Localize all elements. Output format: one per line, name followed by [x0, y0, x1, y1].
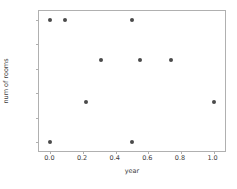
data-point	[138, 58, 142, 62]
x-tick-label: 0.0	[44, 155, 54, 162]
y-tick-mark	[36, 44, 39, 45]
x-tick-label: 0.8	[175, 155, 185, 162]
data-point	[212, 100, 216, 104]
y-axis-label: num of rooms	[3, 58, 10, 103]
data-point	[84, 100, 88, 104]
y-tick-mark	[36, 118, 39, 119]
x-tick-label: 0.2	[77, 155, 87, 162]
data-point	[99, 58, 103, 62]
y-tick-mark	[36, 142, 39, 143]
x-tick-label: 0.4	[110, 155, 120, 162]
data-point	[48, 18, 52, 22]
data-point	[130, 18, 134, 22]
x-axis-label: year	[38, 168, 226, 175]
data-point	[130, 140, 134, 144]
data-point	[169, 58, 173, 62]
axes-frame	[38, 10, 226, 152]
plot-area	[39, 11, 225, 151]
y-tick-mark	[36, 20, 39, 21]
x-tick-label: 0.6	[142, 155, 152, 162]
data-point	[63, 18, 67, 22]
x-tick-label: 1.0	[207, 155, 217, 162]
data-point	[48, 140, 52, 144]
scatter-plot-figure: 0.00.20.40.60.81.00.00.20.40.60.81.0 yea…	[0, 0, 237, 189]
y-tick-mark	[36, 69, 39, 70]
y-tick-mark	[36, 93, 39, 94]
